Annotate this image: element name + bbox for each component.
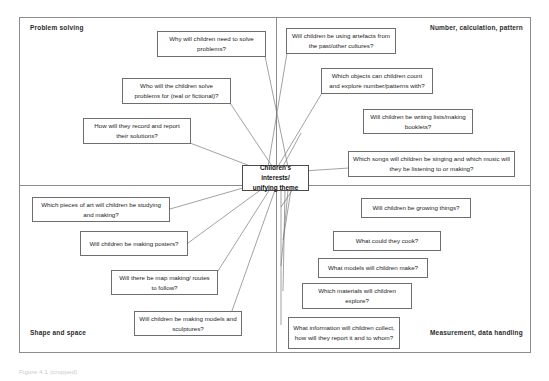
quadrant-label-problem-solving: Problem solving [30, 24, 84, 31]
quadrant-label-number-calculation-pattern: Number, calculation, pattern [430, 24, 523, 31]
node-objects-count-number-patterns[interactable]: Which objects can children count and exp… [321, 68, 433, 94]
node-making-posters[interactable]: Will children be making posters? [80, 231, 188, 256]
center-node-childrens-interests[interactable]: Children's interests/ unifying theme [242, 165, 309, 191]
node-what-could-they-cook[interactable]: What could they cook? [333, 231, 441, 251]
node-artefacts-past-other-cultures[interactable]: Will children be using artefacts from th… [286, 28, 396, 54]
figure-caption: Figure 4.1 (cropped) [19, 369, 77, 375]
quadrant-label-measurement-data-handling: Measurement, data handling [430, 329, 523, 336]
center-node-line-3: unifying theme [253, 184, 298, 191]
node-what-models-will-children-make[interactable]: What models will children make? [318, 258, 428, 278]
diagram-canvas: Problem solving Number, calculation, pat… [0, 0, 549, 381]
node-pieces-of-art[interactable]: Which pieces of art will children be stu… [32, 197, 170, 222]
node-who-solve-problems-for[interactable]: Who will the children solve problems for… [122, 78, 231, 104]
center-node-text: Children's interests/ unifying theme [253, 163, 298, 194]
node-what-information-collect[interactable]: What information will children collect, … [288, 317, 400, 349]
center-node-line-1: Children's [260, 164, 291, 171]
node-growing-things[interactable]: Will children be growing things? [361, 198, 471, 218]
node-models-and-sculptures[interactable]: Will children be making models and sculp… [134, 311, 242, 336]
node-writing-lists-booklets[interactable]: Will children be writing lists/making bo… [363, 109, 473, 134]
node-which-materials-explore[interactable]: Which materials will children explore? [302, 283, 412, 309]
center-node-line-2: interests/ [261, 174, 289, 181]
quadrant-label-shape-and-space: Shape and space [30, 329, 86, 336]
node-record-report-solutions[interactable]: How will they record and report their so… [83, 118, 191, 144]
node-songs-music[interactable]: Which songs will children be singing and… [348, 151, 515, 177]
node-why-solve-problems[interactable]: Why will children need to solve problems… [157, 31, 266, 57]
node-map-making-routes[interactable]: Will there be map making/ routes to foll… [111, 270, 218, 295]
